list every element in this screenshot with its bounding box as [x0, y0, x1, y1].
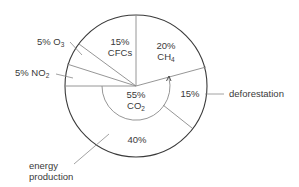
label-ch4: 20% CH4	[150, 40, 182, 65]
ch4-percent: 20%	[150, 40, 182, 51]
deforestation-percent: 15%	[180, 88, 199, 99]
o3-sub: 3	[61, 41, 65, 48]
leader-o3	[70, 42, 82, 55]
label-deforestation-percent: 15%	[178, 88, 202, 99]
energy-percent: 40%	[127, 134, 146, 145]
label-energy-production: energy production	[29, 160, 73, 182]
energy-line1: energy	[29, 160, 73, 171]
ch4-name: CH4	[150, 51, 182, 65]
label-o3: 5% O3	[37, 36, 64, 50]
energy-line2: production	[29, 171, 73, 182]
ch4-sub: 4	[171, 56, 175, 63]
cfcs-percent: 15%	[104, 36, 136, 47]
divider-deforestation-energy	[163, 105, 192, 128]
cfcs-name: CFCs	[104, 47, 136, 58]
co2-main: CO	[127, 100, 141, 111]
ch4-main: CH	[157, 51, 171, 62]
label-energy-percent: 40%	[125, 134, 149, 145]
co2-sub: 2	[141, 105, 145, 112]
label-no2: 5% NO2	[15, 67, 49, 81]
no2-sub: 2	[46, 72, 50, 79]
o3-text: 5% O	[37, 36, 61, 47]
no2-text: 5% NO	[15, 67, 46, 78]
co2-percent: 55%	[118, 89, 154, 100]
divider-ch4-co2	[136, 67, 206, 86]
label-co2: 55% CO2	[118, 89, 154, 114]
label-deforestation: deforestation	[229, 88, 284, 99]
divider-no2-o3	[67, 64, 136, 86]
co2-name: CO2	[118, 100, 154, 114]
deforestation-name: deforestation	[229, 88, 284, 99]
label-cfcs: 15% CFCs	[104, 36, 136, 58]
leader-no2	[56, 74, 73, 78]
